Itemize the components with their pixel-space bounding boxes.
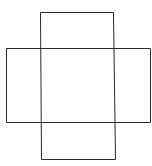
box-net-diagram <box>0 0 152 166</box>
left-vertical-line <box>41 13 42 160</box>
right-vertical-line <box>114 13 116 160</box>
